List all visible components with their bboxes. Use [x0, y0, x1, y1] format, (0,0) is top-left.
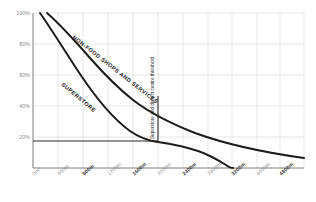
y-tick-label: 100% [16, 10, 30, 16]
series-label-non-food-shops-and-services: NON-FOOD SHOPS AND SERVICES [71, 34, 159, 105]
threshold-annotation-label: Superstore and district centre threshold [150, 56, 155, 139]
y-tick-label: 40% [19, 103, 30, 109]
y-tick-label: 80% [19, 41, 30, 47]
series-line-non-food-shops-and-services [47, 13, 304, 158]
y-tick-label: 60% [19, 72, 30, 78]
y-tick-label: 20% [19, 134, 30, 140]
threshold-marker [33, 96, 158, 141]
x-axis-ticks: 0m 400m 800m 1200m 1600m 2000m 2400m 280… [0, 172, 316, 202]
series-label-superstore: SUPERSTORE [60, 81, 97, 113]
chart-root: NON-FOOD SHOPS AND SERVICES SUPERSTORE S… [0, 0, 316, 202]
